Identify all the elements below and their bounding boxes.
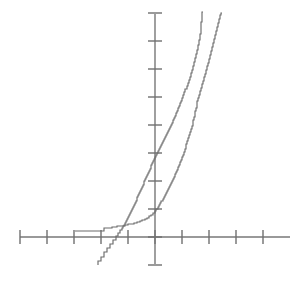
plot-canvas [0,0,307,283]
series-line-2 [75,13,222,231]
chart-figure [0,0,307,283]
series-group [75,12,222,265]
y-axis-group [148,13,162,265]
